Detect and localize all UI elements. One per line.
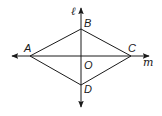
rhombus-diagram: ℓ m A B C D O [0,0,162,116]
label-point-b: B [84,17,91,29]
label-point-o: O [84,59,93,71]
label-point-d: D [84,83,92,95]
label-point-a: A [23,42,31,54]
label-point-c: C [128,42,136,54]
label-line-m: m [143,56,153,69]
label-line-l: ℓ [71,5,76,18]
